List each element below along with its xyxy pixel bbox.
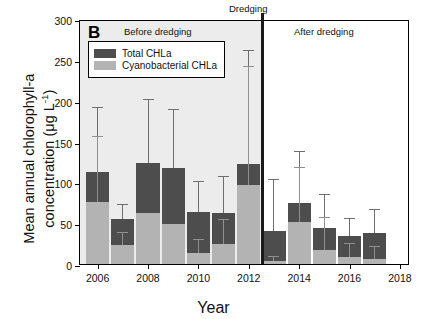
error-bar-cyano [122,233,123,245]
y-tick-mark [75,225,80,226]
error-bar-total-cap [168,109,179,110]
legend-swatch-total [94,49,116,58]
bar-group [187,212,210,264]
bar-group [136,163,159,264]
y-axis-title: Mean annual chlorophyll-a concentration … [21,19,58,299]
error-bar-total [198,182,199,211]
bar-cyanobacterial-chla [262,261,285,264]
chart-legend: Total CHLa Cyanobacterial CHLa [88,41,225,78]
x-tick-label: 2010 [187,272,210,284]
x-tick-label: 2016 [338,272,361,284]
error-bar-total [173,110,174,167]
y-tick-label: 250 [54,56,72,68]
y-tick-mark [75,62,80,63]
error-bar-total-cap [294,151,305,152]
x-axis-title: Year [0,299,427,317]
legend-item-cyano: Cyanobacterial CHLa [94,60,217,71]
bar-cyanobacterial-chla [136,213,159,264]
bar-cyanobacterial-chla [237,185,260,264]
error-bar-cyano [273,257,274,261]
error-bar-cyano [299,168,300,222]
error-bar-cyano [324,218,325,250]
y-tick-label: 150 [54,138,72,150]
error-bar-cyano-cap [294,167,305,168]
error-bar-cyano-cap [117,232,128,233]
error-bar-cyano-cap [268,256,279,257]
x-tick-mark [299,264,300,269]
bar-cyanobacterial-chla [111,245,134,264]
error-bar-cyano-cap [344,243,355,244]
y-tick-label: 100 [54,178,72,190]
y-axis-title-exponent: -1 [39,94,50,103]
error-bar-total [273,180,274,231]
y-axis-title-line2: concentration (μg L [41,103,57,227]
error-bar-cyano [248,67,249,185]
error-bar-cyano [198,240,199,252]
bar-group [162,168,185,264]
x-tick-label: 2014 [287,272,310,284]
error-bar-total-cap [344,218,355,219]
y-tick-mark [75,103,80,104]
x-tick-label: 2018 [388,272,411,284]
y-tick-mark [75,266,80,267]
error-bar-total [148,100,149,163]
bar-cyanobacterial-chla [162,224,185,264]
bar-cyanobacterial-chla [86,202,109,264]
y-tick-mark [75,21,80,22]
x-tick-label: 2008 [136,272,159,284]
bar-cyanobacterial-chla [288,222,311,264]
y-tick-label: 0 [66,260,72,272]
error-bar-total-cap [143,99,154,100]
x-tick-mark [148,264,149,269]
bar-cyanobacterial-chla [212,244,235,264]
x-tick-label: 2012 [237,272,260,284]
y-tick-mark [75,184,80,185]
y-tick-label: 50 [60,219,72,231]
error-bar-cyano [349,244,350,257]
error-bar-total-cap [243,50,254,51]
x-tick-label: 2006 [86,272,109,284]
error-bar-total [223,177,224,213]
bar-cyanobacterial-chla [363,259,386,264]
x-tick-mark [198,264,199,269]
y-tick-label: 200 [54,97,72,109]
legend-label-cyano: Cyanobacterial CHLa [122,60,217,71]
error-bar-cyano [374,247,375,259]
x-tick-mark [350,264,351,269]
dredging-event-line [261,13,264,264]
error-bar-total [122,205,123,219]
x-tick-mark [400,264,401,269]
error-bar-total-cap [117,204,128,205]
legend-swatch-cyano [94,61,116,70]
error-bar-total [349,219,350,236]
plot-area: B Before dredging After dredging 0501001… [79,20,409,265]
y-axis-title-close: ) [41,90,57,95]
legend-label-total: Total CHLa [122,48,171,59]
y-tick-label: 300 [54,15,72,27]
bar-cyanobacterial-chla [313,250,336,264]
error-bar-cyano-cap [243,66,254,67]
error-bar-cyano-cap [369,246,380,247]
bar-cyanobacterial-chla [187,253,210,264]
error-bar-total [374,210,375,233]
legend-item-total: Total CHLa [94,48,217,59]
error-bar-cyano-cap [319,217,330,218]
x-tick-mark [98,264,99,269]
error-bar-total-cap [193,181,204,182]
error-bar-total-cap [218,176,229,177]
x-tick-mark [249,264,250,269]
error-bar-cyano [223,220,224,245]
error-bar-total-cap [319,194,330,195]
error-bar-cyano-cap [92,136,103,137]
error-bar-total-cap [92,107,103,108]
error-bar-total-cap [369,209,380,210]
dredging-label: Dredging [229,3,268,14]
chart-figure: Mean annual chlorophyll-a concentration … [0,0,427,319]
error-bar-cyano-cap [193,239,204,240]
y-axis-title-line1: Mean annual chlorophyll-a [21,74,37,244]
error-bar-total-cap [268,179,279,180]
error-bar-cyano [97,137,98,202]
error-bar-cyano-cap [218,219,229,220]
y-tick-mark [75,144,80,145]
